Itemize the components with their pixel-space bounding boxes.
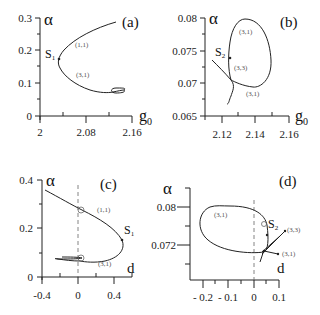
y-axis-label: α — [163, 179, 172, 198]
branch-d-33b — [262, 236, 280, 252]
branch-label: (3,1) — [239, 28, 253, 36]
branch-label: (3,1) — [76, 71, 90, 79]
s2-label: S2 — [268, 217, 279, 232]
s2-point — [229, 57, 232, 60]
xtick-label: 0.1 — [272, 291, 286, 303]
xtick-label: 2 — [37, 126, 43, 138]
xtick-label: 0 — [75, 289, 81, 301]
panel-b: 0.08 0.075 0.07 0.065 2.12 2.14 2.16 α g… — [172, 9, 308, 140]
bifurcation-marker — [262, 222, 267, 227]
point-marker — [277, 253, 279, 255]
x-axis-label: d — [127, 260, 135, 276]
x-axis-label: g0 — [139, 107, 152, 127]
branch-d-31 — [264, 251, 278, 254]
panel-label: (a) — [122, 14, 139, 31]
ytick-label: 0.072 — [151, 239, 176, 251]
branch-label: (3,1) — [98, 260, 112, 268]
xtick-label: - 0.1 — [218, 291, 238, 303]
ytick-label: 0 — [28, 271, 34, 283]
point-marker — [266, 234, 268, 236]
s1-label: S1 — [45, 47, 56, 62]
xtick-label: 0 — [251, 291, 257, 303]
panel-d: 0.08 0.072 - 0.2 - 0.1 0 0.1 α d (d) S2 … — [151, 173, 301, 303]
ytick-label: 0.075 — [172, 45, 197, 57]
branch-label: (3,1) — [214, 211, 228, 219]
s1-label: S1 — [124, 223, 135, 238]
s2-label: S2 — [215, 45, 226, 60]
xtick-label: 2.16 — [279, 128, 299, 140]
ytick-label: 0.4 — [19, 174, 33, 186]
ytick-label: 0.065 — [172, 110, 197, 122]
xtick-label: - 0.2 — [193, 291, 213, 303]
loop-d — [200, 206, 268, 253]
panel-c: 0.4 0.2 0 -0.4 0 0.4 α d (c) S1 (1,1) (3… — [19, 171, 135, 301]
curve-a — [58, 22, 124, 93]
xtick-label: 0.4 — [107, 289, 121, 301]
ytick-label: 0.08 — [178, 12, 198, 24]
branch-b — [212, 60, 233, 104]
xtick-label: 2.12 — [212, 128, 231, 140]
xtick-label: 2.14 — [245, 128, 265, 140]
y-axis-label: α — [209, 9, 218, 28]
s1-point — [58, 58, 61, 61]
xtick-label: -0.4 — [33, 289, 51, 301]
x-axis-label: g0 — [295, 107, 308, 127]
panel-label: (b) — [280, 14, 298, 31]
point-marker — [263, 250, 266, 253]
panel-a: 0.3 0.2 0.1 0 2 2.08 2.16 α g0 (a) S1 (1… — [18, 10, 152, 138]
branch-label: (3,3) — [234, 64, 248, 72]
ytick-label: 0.2 — [19, 222, 33, 234]
xtick-label: 2.16 — [122, 126, 142, 138]
branch-label: (3,1) — [246, 90, 260, 98]
figure: 0.3 0.2 0.1 0 2 2.08 2.16 α g0 (a) S1 (1… — [0, 0, 320, 315]
branch-label: (3,1) — [282, 250, 296, 258]
panel-label: (c) — [100, 176, 117, 193]
curve-c — [45, 190, 123, 262]
point-marker — [284, 230, 286, 232]
y-axis-label: α — [46, 171, 55, 190]
ytick-label: 0.07 — [178, 77, 198, 89]
xtick-label: 2.08 — [76, 126, 96, 138]
ytick-label: 0.3 — [18, 12, 32, 24]
branch-label: (1,1) — [97, 206, 111, 214]
x-axis-label: d — [277, 260, 285, 276]
ytick-label: 0.2 — [18, 44, 32, 56]
s1-point — [121, 239, 124, 242]
branch-label: (3,3) — [287, 226, 301, 234]
y-axis-label: α — [44, 10, 53, 29]
branch-label: (1,1) — [75, 41, 89, 49]
ytick-label: 0.08 — [157, 201, 177, 213]
ytick-label: 0 — [27, 110, 33, 122]
panel-label: (d) — [279, 173, 297, 190]
ytick-label: 0.1 — [18, 77, 32, 89]
